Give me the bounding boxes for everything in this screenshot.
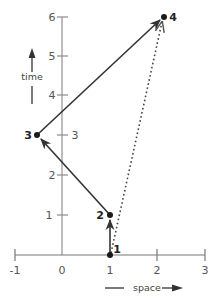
y-tick-6: 6 (49, 11, 56, 24)
space-label: space (133, 282, 161, 293)
space-axis-title: space (105, 282, 183, 293)
x-tick-neg1: -1 (10, 264, 21, 277)
event-3-dot (34, 132, 40, 138)
event-4-label: 4 (169, 11, 177, 24)
y-tick-3-right: 3 (72, 129, 79, 142)
y-tick-5: 5 (49, 50, 56, 63)
time-label: time (21, 71, 43, 82)
x-tick-2: 2 (154, 264, 161, 277)
event-2-dot (107, 212, 113, 218)
event-1-label: 1 (113, 243, 121, 256)
y-tick-1: 1 (46, 209, 53, 222)
x-tick-0: 0 (59, 264, 66, 277)
time-axis-title: time (21, 48, 43, 104)
event-3-label: 3 (24, 129, 32, 142)
event-1-dot (107, 252, 113, 258)
x-tick-1: 1 (107, 264, 114, 277)
path-1-to-4-dotted (111, 22, 162, 253)
y-tick-2: 2 (49, 169, 56, 182)
y-tick-4: 4 (49, 89, 56, 102)
spacetime-diagram: 1 2 3 4 5 6 -1 0 1 2 3 time space (0, 0, 222, 298)
event-2-label: 2 (96, 209, 104, 222)
x-tick-3: 3 (202, 264, 209, 277)
space-arrow-right-icon (172, 285, 183, 292)
axes: 1 2 3 4 5 6 -1 0 1 2 3 (10, 11, 209, 277)
event-4-dot (161, 14, 167, 20)
